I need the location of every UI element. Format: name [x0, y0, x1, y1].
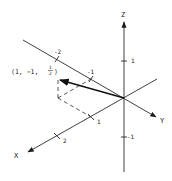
vector-label: ⟨1, −1, 1 2 ⟩: [11, 65, 58, 76]
3d-axes-diagram: Z 1 -1 Y -1 -2 X 1 2 ⟨1, −1, 1 2 ⟩: [0, 0, 172, 181]
z-tick-label-neg1: -1: [127, 133, 135, 140]
y-tick-label-neg1: -1: [87, 68, 95, 75]
x-axis-label: X: [14, 152, 19, 160]
vector-arrow: [60, 80, 124, 98]
y-axis: [23, 40, 156, 117]
y-tick-label-neg2: -2: [54, 48, 62, 55]
z-tick-label-1: 1: [131, 57, 135, 64]
vector-label-numerator: 1: [49, 65, 52, 70]
vector-label-denominator: 2: [49, 71, 52, 76]
vector-label-suffix: ⟩: [54, 68, 58, 76]
dashed-to-y-tick: [58, 79, 91, 98]
y-axis-label: Y: [160, 117, 165, 125]
vector-label-prefix: ⟨1, −1,: [11, 68, 38, 76]
x-tick-label-2: 2: [63, 137, 67, 144]
dashed-to-x-tick: [58, 98, 91, 117]
x-tick-label-1: 1: [97, 118, 101, 125]
z-axis-label: Z: [121, 11, 125, 19]
